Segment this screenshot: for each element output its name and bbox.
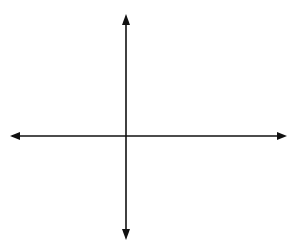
axes bbox=[10, 14, 287, 240]
x-axis-arrow-left-icon bbox=[10, 132, 20, 140]
y-axis-arrow-down-icon bbox=[122, 229, 130, 240]
coordinate-grid-diagram bbox=[0, 0, 287, 240]
x-axis-arrow-right-icon bbox=[277, 132, 287, 140]
y-axis-arrow-up-icon bbox=[122, 14, 130, 25]
